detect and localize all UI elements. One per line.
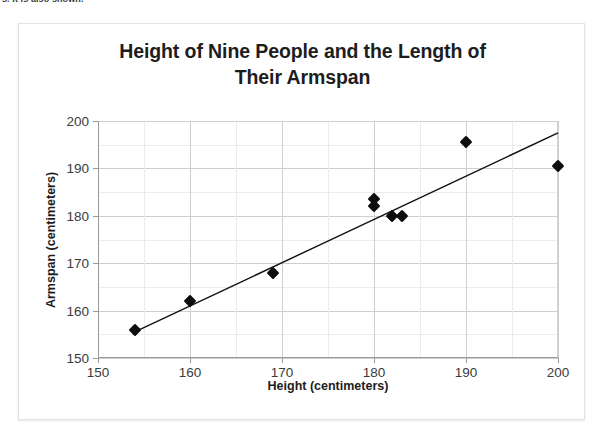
y-axis-tick bbox=[93, 168, 98, 169]
gridline-horizontal bbox=[98, 358, 558, 359]
chart-title-line-1: Height of Nine People and the Length of bbox=[59, 38, 546, 64]
y-axis-tick-label: 160 bbox=[66, 303, 89, 318]
plot-area: 150160170180190200150160170180190200 bbox=[98, 121, 558, 358]
x-axis-line bbox=[98, 357, 558, 358]
x-axis-title: Height (centimeters) bbox=[98, 379, 558, 393]
x-axis-tick-label: 150 bbox=[87, 365, 110, 380]
y-axis-title-label: Armspan (centimeters) bbox=[44, 171, 58, 307]
y-axis-tick bbox=[93, 121, 98, 122]
x-axis-tick-label: 160 bbox=[179, 365, 202, 380]
y-axis-tick bbox=[93, 263, 98, 264]
x-axis-tick bbox=[558, 358, 559, 363]
y-axis-tick bbox=[93, 311, 98, 312]
x-axis-tick-label: 200 bbox=[547, 365, 570, 380]
y-axis-tick-label: 180 bbox=[66, 208, 89, 223]
x-axis-tick bbox=[190, 358, 191, 363]
y-axis-title: Armspan (centimeters) bbox=[42, 121, 60, 358]
x-axis-tick-label: 190 bbox=[455, 365, 478, 380]
y-axis-tick-label: 150 bbox=[66, 351, 89, 366]
chart-title-line-2: Their Armspan bbox=[59, 64, 546, 90]
x-axis-tick-label: 170 bbox=[271, 365, 294, 380]
chart-frame: Height of Nine People and the Length of … bbox=[18, 23, 585, 420]
y-axis-tick-label: 190 bbox=[66, 161, 89, 176]
y-axis-line bbox=[98, 121, 99, 358]
x-axis-tick bbox=[98, 358, 99, 363]
trend-line bbox=[98, 121, 558, 358]
x-axis-tick bbox=[374, 358, 375, 363]
gridline-vertical bbox=[558, 121, 559, 358]
y-axis-tick bbox=[93, 216, 98, 217]
y-axis-tick-label: 200 bbox=[66, 114, 89, 129]
x-axis-tick-label: 180 bbox=[363, 365, 386, 380]
clipped-top-text: s. It is also shown. bbox=[0, 0, 601, 6]
x-axis-tick bbox=[282, 358, 283, 363]
chart-title: Height of Nine People and the Length of … bbox=[59, 38, 546, 90]
x-axis-tick bbox=[466, 358, 467, 363]
y-axis-tick-label: 170 bbox=[66, 256, 89, 271]
